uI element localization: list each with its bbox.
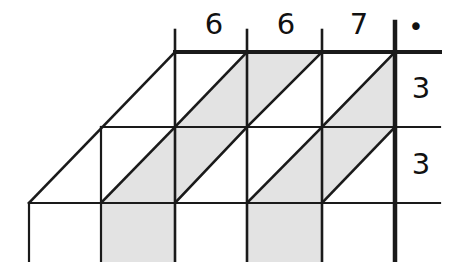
row-label-1: 3 [404,74,438,103]
figure-canvas: 6 6 7 • 3 3 [0,0,456,262]
column-label-dot: • [404,14,428,40]
shade-r3c1 [101,203,175,262]
row-label-2: 3 [404,150,438,179]
shade-r3c3 [247,203,322,262]
grid-diagram [0,0,456,262]
column-label-1: 6 [188,10,240,39]
column-label-3: 7 [333,10,385,39]
column-label-2: 6 [260,10,312,39]
